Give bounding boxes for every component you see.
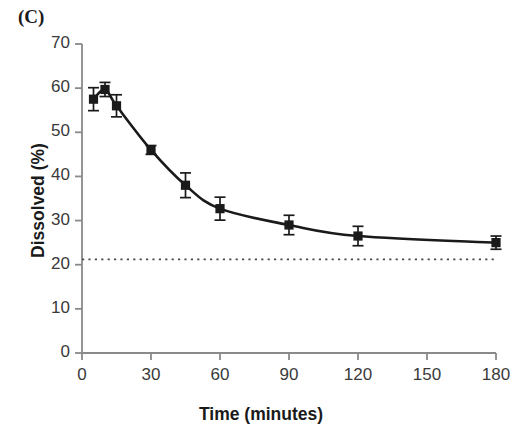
x-tick-label: 150 bbox=[404, 365, 450, 385]
data-point-marker bbox=[215, 204, 224, 213]
data-point-marker bbox=[89, 95, 98, 104]
data-point-marker bbox=[100, 85, 109, 94]
y-tick-label: 0 bbox=[24, 342, 70, 362]
data-point-marker bbox=[284, 220, 293, 229]
data-point-marker bbox=[353, 231, 362, 240]
data-series-line bbox=[94, 89, 497, 242]
data-point-marker bbox=[181, 181, 190, 190]
data-point-marker bbox=[112, 101, 121, 110]
data-point-marker bbox=[146, 145, 155, 154]
x-tick-label: 120 bbox=[335, 365, 381, 385]
y-tick-label: 50 bbox=[24, 121, 70, 141]
x-tick-label: 60 bbox=[197, 365, 243, 385]
x-tick-label: 0 bbox=[59, 365, 105, 385]
y-tick-label: 20 bbox=[24, 254, 70, 274]
y-tick-label: 10 bbox=[24, 298, 70, 318]
y-tick-label: 70 bbox=[24, 33, 70, 53]
figure-panel-c: (C) Dissolved (%) Time (minutes) 0102030… bbox=[0, 0, 522, 440]
y-tick-label: 30 bbox=[24, 210, 70, 230]
data-point-marker bbox=[491, 238, 500, 247]
x-tick-label: 90 bbox=[266, 365, 312, 385]
y-tick-label: 60 bbox=[24, 77, 70, 97]
x-tick-label: 30 bbox=[128, 365, 174, 385]
x-tick-label: 180 bbox=[473, 365, 519, 385]
y-tick-label: 40 bbox=[24, 165, 70, 185]
